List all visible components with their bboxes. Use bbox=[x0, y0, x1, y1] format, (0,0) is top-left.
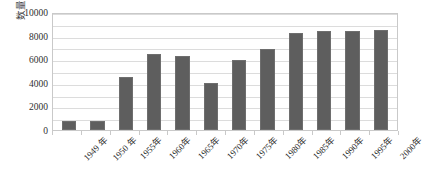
bar[interactable] bbox=[175, 56, 189, 130]
x-tick-label: 1995年 bbox=[369, 135, 396, 162]
x-tick-label: 1955年 bbox=[138, 135, 165, 162]
bar[interactable] bbox=[260, 49, 274, 130]
y-tick-label: 10000 bbox=[0, 9, 48, 18]
y-tick-label: 8000 bbox=[0, 32, 48, 41]
y-axis-tick-labels: 0200040006000800010000 bbox=[0, 13, 48, 131]
bar-slot bbox=[55, 14, 83, 130]
bar[interactable] bbox=[345, 31, 359, 130]
bar-slot bbox=[83, 14, 111, 130]
x-tick-label: 1950 年 bbox=[111, 135, 139, 163]
bars-container bbox=[53, 14, 397, 130]
bar-slot bbox=[140, 14, 168, 130]
x-tick-mark bbox=[398, 131, 399, 135]
y-tick-label: 2000 bbox=[0, 103, 48, 112]
bar-slot bbox=[367, 14, 395, 130]
x-tick-label: 1970年 bbox=[225, 135, 252, 162]
bar[interactable] bbox=[119, 77, 133, 130]
bar-slot bbox=[197, 14, 225, 130]
bar-slot bbox=[338, 14, 366, 130]
x-tick-label: 1960年 bbox=[167, 135, 194, 162]
bar[interactable] bbox=[232, 60, 246, 130]
bar[interactable] bbox=[90, 121, 104, 130]
bar[interactable] bbox=[147, 54, 161, 130]
bar-slot bbox=[112, 14, 140, 130]
y-tick-label: 6000 bbox=[0, 56, 48, 65]
x-tick-label: 2000年 bbox=[398, 135, 425, 162]
bar-slot bbox=[168, 14, 196, 130]
y-tick-label: 0 bbox=[0, 127, 48, 136]
bar-slot bbox=[253, 14, 281, 130]
y-tick-label: 4000 bbox=[0, 79, 48, 88]
x-tick-label: 1990年 bbox=[340, 135, 367, 162]
bar[interactable] bbox=[317, 31, 331, 130]
x-tick-label: 1965年 bbox=[196, 135, 223, 162]
plot-area bbox=[52, 13, 398, 131]
bar[interactable] bbox=[289, 33, 303, 130]
bar[interactable] bbox=[204, 83, 218, 130]
x-tick-label: 1980年 bbox=[283, 135, 310, 162]
bar[interactable] bbox=[374, 30, 388, 130]
x-tick-label: 1949 年 bbox=[82, 135, 110, 163]
bar-slot bbox=[282, 14, 310, 130]
x-tick-label: 1975年 bbox=[254, 135, 281, 162]
x-tick-label: 1985年 bbox=[311, 135, 338, 162]
bar-slot bbox=[225, 14, 253, 130]
bar[interactable] bbox=[62, 121, 76, 130]
bar-slot bbox=[310, 14, 338, 130]
x-axis-tick-labels: 1949 年1950 年1955年1960年1965年1970年1975年198… bbox=[52, 135, 398, 181]
